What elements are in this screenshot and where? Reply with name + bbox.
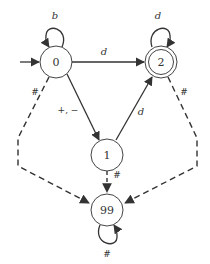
edge-0-99 <box>18 77 89 203</box>
state-0-label: 0 <box>53 56 60 69</box>
edge-label-2-99: # <box>180 87 188 97</box>
edge-label-0-99: # <box>31 87 39 97</box>
state-0: 0 <box>40 46 72 78</box>
edge-1-2 <box>116 77 152 140</box>
edge-label-1-99: # <box>113 170 121 180</box>
loop-edge-2-2 <box>151 28 170 47</box>
edge-label-99-99: # <box>103 249 111 259</box>
state-2-label: 2 <box>158 56 165 69</box>
state-2-accepting: 2 <box>145 46 177 78</box>
state-99-label: 99 <box>100 204 114 217</box>
edge-label-1-2: d <box>138 106 144 117</box>
state-1-label: 1 <box>104 149 111 162</box>
state-1: 1 <box>91 139 123 171</box>
edge-label-0-1: +, − <box>58 105 79 115</box>
loop-edge-99-99 <box>98 225 117 244</box>
edge-label-2-2: d <box>155 10 161 21</box>
edge-label-0-2: d <box>101 46 107 57</box>
edge-label-0-0: b <box>52 10 58 21</box>
loop-edge-0-0 <box>46 28 64 47</box>
state-diagram: b d +, − d d # # # # 0 2 1 99 <box>0 0 210 264</box>
state-99: 99 <box>91 194 123 226</box>
